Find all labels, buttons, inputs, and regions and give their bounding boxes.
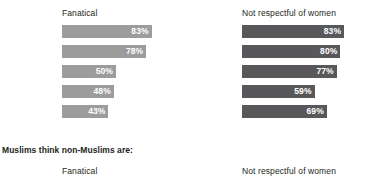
table-row: 80%	[185, 44, 371, 64]
bar-fanatical-us: 43%	[62, 105, 108, 118]
bar-track: 77%	[242, 65, 365, 78]
bar-fanatical-germany: 78%	[62, 45, 146, 58]
bar-value-label: 50%	[96, 65, 113, 78]
bar-fanatical-spain: 83%	[62, 25, 152, 38]
grouped-bar-chart: Fanatical Not respectful of women Spain …	[0, 0, 371, 178]
bar-value-label: 80%	[320, 45, 337, 58]
bar-value-label: 59%	[294, 85, 311, 98]
bar-value-label: 83%	[324, 25, 341, 38]
panel-not-respectful-of-women: 83% 80% 77% 59%	[185, 24, 371, 124]
bar-value-label: 48%	[94, 85, 111, 98]
bar-track: 78%	[62, 45, 170, 58]
bar-track: 69%	[242, 105, 365, 118]
table-row: Germany 78%	[0, 44, 185, 64]
table-row: 59%	[185, 84, 371, 104]
legend-item-not-respectful-of-women: Not respectful of women	[242, 166, 336, 176]
bar-not-respectful-spain: 83%	[242, 25, 344, 38]
table-row: Spain 83%	[0, 24, 185, 44]
bar-track: 59%	[242, 85, 365, 98]
legend-item-fanatical: Fanatical	[62, 166, 97, 176]
panel-fanatical: Spain 83% Germany 78% France 50%	[0, 24, 185, 124]
table-row: 69%	[185, 104, 371, 124]
table-row: 83%	[185, 24, 371, 44]
bar-track: 83%	[62, 25, 170, 38]
bar-value-label: 69%	[307, 105, 324, 118]
bar-track: 83%	[242, 25, 365, 38]
bar-value-label: 77%	[316, 65, 333, 78]
bar-value-label: 43%	[88, 105, 105, 118]
bar-not-respectful-great-britain: 59%	[242, 85, 315, 98]
table-row: France 50%	[0, 64, 185, 84]
table-row: Great Britain 48%	[0, 84, 185, 104]
bar-track: 43%	[62, 105, 170, 118]
bar-fanatical-france: 50%	[62, 65, 116, 78]
bar-not-respectful-france: 77%	[242, 65, 337, 78]
column-header-not-respectful-of-women: Not respectful of women	[242, 8, 336, 18]
bar-value-label: 83%	[131, 25, 148, 38]
table-row: 77%	[185, 64, 371, 84]
bar-track: 80%	[242, 45, 365, 58]
bar-track: 48%	[62, 85, 170, 98]
bar-track: 50%	[62, 65, 170, 78]
legend-title: Muslims think non-Muslims are:	[2, 145, 133, 155]
bar-value-label: 78%	[126, 45, 143, 58]
column-header-fanatical: Fanatical	[62, 8, 97, 18]
bar-not-respectful-germany: 80%	[242, 45, 340, 58]
table-row: U.S. 43%	[0, 104, 185, 124]
bar-not-respectful-us: 69%	[242, 105, 327, 118]
bar-fanatical-great-britain: 48%	[62, 85, 114, 98]
